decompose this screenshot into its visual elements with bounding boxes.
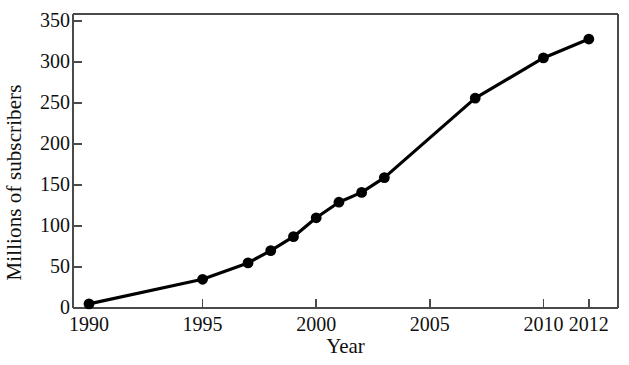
plot-area xyxy=(0,0,629,365)
data-point-marker xyxy=(288,231,299,242)
data-point-marker xyxy=(583,34,594,45)
data-point-marker xyxy=(311,212,322,223)
data-point-marker xyxy=(84,299,95,310)
data-point-marker xyxy=(470,93,481,104)
data-point-marker xyxy=(265,245,276,256)
series-line xyxy=(89,39,589,304)
axes xyxy=(73,14,618,308)
subscribers-line-chart: Millions of subscribers 0501001502002503… xyxy=(0,0,629,365)
data-point-marker xyxy=(538,53,549,64)
data-point-marker xyxy=(334,197,345,208)
data-point-marker xyxy=(379,172,390,183)
data-point-marker xyxy=(356,187,367,198)
data-series xyxy=(84,34,595,310)
data-point-marker xyxy=(243,258,254,269)
data-point-marker xyxy=(197,274,208,285)
